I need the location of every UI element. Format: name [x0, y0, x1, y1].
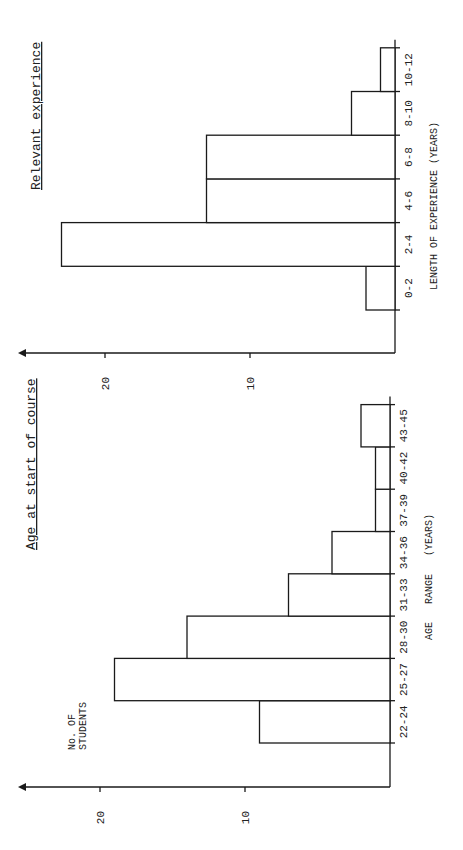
histogram-bar [187, 616, 390, 658]
x-tick-label: 43-45 [398, 409, 410, 442]
experience-histogram: Relevant experience LENGTH OF EXPERIENCE… [18, 40, 440, 390]
y-axis-label-line2: STUDENTS [78, 702, 89, 750]
x-tick-label: 31-33 [398, 578, 410, 611]
histogram-bar [115, 658, 391, 700]
histogram-bar [289, 574, 391, 616]
histogram-bar [207, 135, 396, 179]
x-tick-label: 25-27 [398, 663, 410, 696]
y-axis-label-line1: No. OF [67, 714, 78, 750]
x-tick-label: 22-24 [398, 705, 410, 738]
y-axis-arrow-icon [18, 783, 26, 791]
x-tick-label: 0-2 [403, 278, 415, 298]
y-tick-label: 20 [100, 377, 112, 390]
y-tick-label: 10 [245, 377, 257, 390]
y-tick-label: 10 [240, 811, 252, 824]
x-tick-label: 37-39 [398, 494, 410, 527]
x-tick-label: 28-30 [398, 621, 410, 654]
x-axis-label: LENGTH OF EXPERIENCE (YEARS) [429, 122, 440, 290]
x-tick-label: 40-42 [398, 452, 410, 485]
rotated-page: Age at start of course No. OF STUDENTS A… [0, 0, 463, 850]
chart-title: Relevant experience [29, 42, 44, 190]
histogram-bar [366, 266, 395, 310]
histogram-bar [352, 92, 396, 136]
histogram-bar [376, 447, 391, 489]
histogram-bar [381, 48, 396, 92]
y-tick-label: 20 [95, 811, 107, 824]
x-tick-label: 2-4 [403, 234, 415, 254]
x-tick-label: 10-12 [403, 53, 415, 86]
histogram-bar [376, 489, 391, 531]
age-histogram: Age at start of course No. OF STUDENTS A… [18, 378, 435, 824]
histogram-bar [332, 532, 390, 574]
y-axis-arrow-icon [18, 349, 26, 357]
histogram-bar [207, 179, 396, 223]
x-tick-label: 4-6 [403, 191, 415, 211]
histogram-bar [62, 223, 396, 267]
chart-title: Age at start of course [24, 378, 39, 550]
x-tick-label: 34-36 [398, 536, 410, 569]
x-axis-label: AGE RANGE (YEARS) [424, 514, 435, 640]
histogram-bar [361, 405, 390, 447]
histogram-figure: Age at start of course No. OF STUDENTS A… [0, 0, 463, 850]
x-tick-label: 6-8 [403, 147, 415, 167]
histogram-bar [260, 701, 391, 743]
x-tick-label: 8-10 [403, 100, 415, 126]
